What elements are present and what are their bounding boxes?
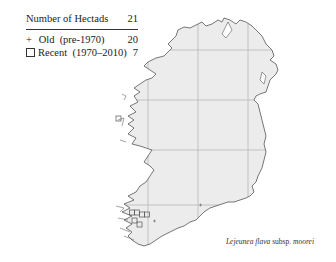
recent-record-square <box>116 116 121 121</box>
caption-infraspecific: moorei <box>293 237 314 246</box>
distribution-map <box>0 0 336 262</box>
caption-rank: subsp. <box>272 237 291 246</box>
caption-species: Lejeunea flava <box>226 237 270 246</box>
map-caption: Lejeunea flava subsp. moorei <box>226 237 314 246</box>
